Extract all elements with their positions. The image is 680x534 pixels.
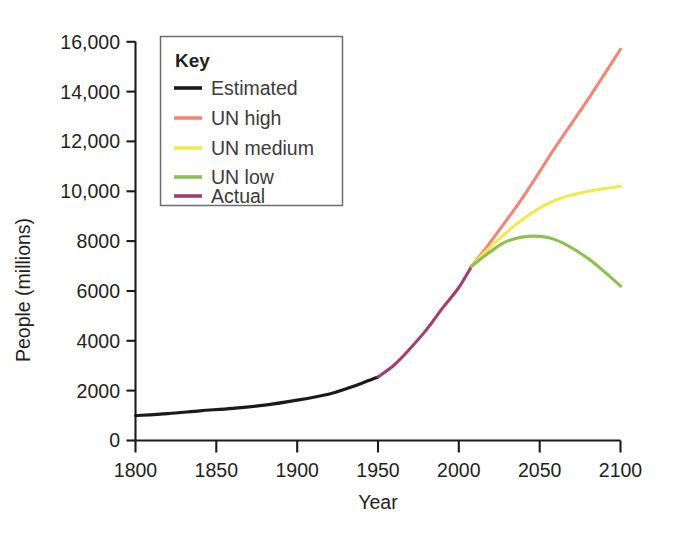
y-tick-label: 8000 [77, 230, 121, 252]
x-tick-label: 1950 [356, 459, 400, 481]
x-tick-label: 1800 [114, 459, 158, 481]
legend-label: UN medium [211, 137, 314, 159]
legend-label: Actual [211, 185, 265, 207]
x-tick-label: 1850 [195, 459, 239, 481]
y-tick-label: 12,000 [60, 130, 120, 152]
y-axis-tick-labels: 0 2000 4000 6000 8000 10,000 12,000 14,0… [60, 31, 120, 451]
y-tick-label: 4000 [77, 330, 121, 352]
x-tick-label: 2050 [518, 459, 562, 481]
legend-label: UN high [211, 107, 281, 129]
y-tick-label: 10,000 [60, 180, 120, 202]
series-line-un-medium [472, 186, 621, 266]
series-line-actual [378, 266, 472, 377]
y-tick-label: 6000 [77, 280, 121, 302]
y-tick-label: 14,000 [60, 81, 120, 103]
series-line-un-high [472, 49, 621, 266]
x-tick-label: 2000 [437, 459, 481, 481]
x-axis-title: Year [358, 491, 398, 513]
y-tick-label: 0 [109, 429, 120, 451]
chart-svg: 0 2000 4000 6000 8000 10,000 12,000 14,0… [0, 0, 680, 534]
x-axis-tick-labels: 1800 1850 1900 1950 2000 2050 2100 [114, 459, 643, 481]
x-axis: 1800 1850 1900 1950 2000 2050 2100 Year [114, 441, 643, 514]
y-axis-ticks [127, 42, 136, 441]
y-axis: 0 2000 4000 6000 8000 10,000 12,000 14,0… [12, 31, 136, 451]
series-line-estimated [136, 377, 379, 416]
y-axis-title: People (millions) [12, 218, 34, 362]
legend-label: Estimated [211, 77, 298, 99]
y-tick-label: 2000 [77, 380, 121, 402]
population-projection-chart: 0 2000 4000 6000 8000 10,000 12,000 14,0… [0, 0, 680, 534]
legend-title: Key [175, 50, 210, 71]
x-axis-ticks [136, 441, 621, 453]
legend: Key Estimated UN high UN medium UN low A… [161, 37, 343, 208]
x-tick-label: 1900 [276, 459, 320, 481]
x-tick-label: 2100 [599, 459, 643, 481]
y-tick-label: 16,000 [60, 31, 120, 53]
